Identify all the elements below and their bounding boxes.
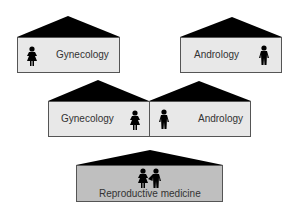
- couple-figures-icon: [137, 168, 163, 188]
- reproductive-medicine-house: Reproductive medicine: [76, 165, 223, 202]
- reproductive-medicine-label: Reproductive medicine: [99, 188, 201, 199]
- roof-middle-right: [149, 81, 251, 101]
- female-figure-icon: [129, 110, 141, 130]
- andrology-label: Andrology: [198, 113, 243, 124]
- female-figure-icon: [26, 46, 38, 66]
- andrology-label: Andrology: [194, 49, 239, 60]
- roof-top-left: [17, 16, 120, 37]
- andrology-house-middle: Andrology: [149, 101, 251, 137]
- gynecology-house-middle: Gynecology: [48, 101, 150, 137]
- roof-middle-left: [48, 80, 149, 101]
- roof-bottom: [76, 150, 223, 165]
- roof-top-right: [180, 17, 282, 37]
- andrology-house-top-right: Andrology: [180, 37, 282, 73]
- gynecology-label: Gynecology: [61, 113, 114, 124]
- male-figure-icon: [158, 109, 170, 129]
- gynecology-label: Gynecology: [56, 49, 109, 60]
- male-figure-icon: [258, 45, 270, 65]
- gynecology-house-top-left: Gynecology: [17, 37, 120, 73]
